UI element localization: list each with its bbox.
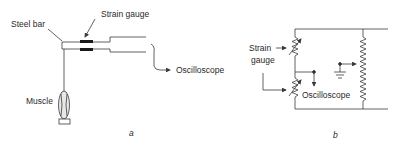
ground-icon: [334, 63, 356, 78]
strain-gauge-label-line2: gauge: [251, 56, 275, 65]
strain-gauge-bottom: [80, 48, 93, 51]
oscilloscope-label-b: Oscilloscope: [302, 91, 350, 100]
panel-a-apparatus: [48, 19, 170, 124]
steel-bar-label: Steel bar: [11, 20, 45, 29]
oscilloscope-wire: [151, 44, 170, 70]
potentiometer-resistor: [360, 29, 366, 109]
muscle-label: Muscle: [26, 97, 53, 106]
panel-a-label: a: [129, 128, 134, 138]
muscle-base: [59, 119, 70, 124]
steel-bar-leader: [48, 29, 62, 41]
strain-gauge-label-line1: Strain: [249, 44, 271, 53]
strain-gauge-lower-pointer: [263, 73, 286, 90]
strain-gauge-resistor-lower: [289, 78, 301, 97]
panel-b-label: b: [333, 130, 338, 140]
muscle-icon: [59, 91, 70, 119]
diagram-canvas: Steel bar Strain gauge Oscilloscope Musc…: [0, 0, 401, 144]
strain-gauge-label: Strain gauge: [101, 10, 149, 19]
strain-gauge-resistor-upper: [289, 37, 301, 56]
strain-gauge-top: [80, 40, 93, 43]
oscilloscope-label-a: Oscilloscope: [176, 66, 224, 75]
strain-gauge-leader: [85, 19, 95, 37]
steel-bar: [62, 37, 146, 52]
